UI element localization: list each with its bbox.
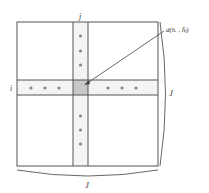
dot-icon [79,128,82,131]
dot-icon [79,114,82,117]
dot-icon [120,86,123,89]
bottom-dimension-label: J [85,181,89,190]
dot-icon [134,86,137,89]
dot-icon [79,49,82,52]
row-label-i: i [10,84,12,93]
dot-icon [29,86,32,89]
highlight-cell [73,80,88,95]
dot-icon [79,34,82,37]
right-brace [160,22,166,166]
dot-icon [57,86,60,89]
dot-icon [106,86,109,89]
bottom-brace [17,170,158,176]
column-label-j: j [78,12,82,21]
matrix-diagram: j i J J d(hᵢ , h̄ⱼ) [0,0,209,193]
dot-icon [79,142,82,145]
dot-icon [43,86,46,89]
cell-annotation-label: d(hᵢ , h̄ⱼ) [166,26,189,34]
annotation-arrow [86,31,164,84]
right-dimension-label: J [169,89,173,98]
dot-icon [79,63,82,66]
